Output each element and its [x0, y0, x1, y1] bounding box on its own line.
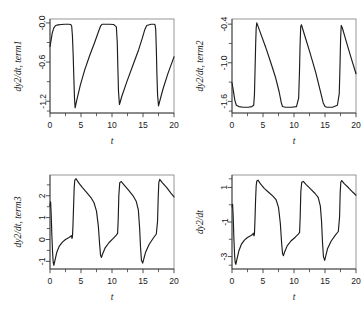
panel-total-y-ticklabel: 1	[220, 185, 230, 190]
panel-term3-plot: 05101520t-1012dy2/dt, term3	[0, 156, 182, 311]
panel-term2-y-ticklabel: -1.6	[220, 94, 230, 109]
panel-term1: 05101520t-0.0-0.6-1.2dy2/dt, term1	[0, 0, 182, 155]
panel-term3-y-ticklabel: 1	[38, 215, 48, 220]
panel-term1-series-term1	[50, 24, 174, 108]
panel-term2-x-axis-title: t	[293, 135, 296, 146]
panel-term3-plot-box	[50, 175, 174, 269]
panel-total-x-ticklabel: 15	[320, 276, 330, 286]
panel-total-y-axis-title: dy2/dt	[194, 210, 205, 234]
panel-term1-y-ticklabel: -1.2	[38, 94, 48, 109]
panel-term3-series-term3	[50, 179, 174, 266]
panel-term2-y-axis-title: dy2/dt, term2	[194, 40, 205, 91]
panel-term1-plot: 05101520t-0.0-0.6-1.2dy2/dt, term1	[0, 0, 182, 155]
panel-total-x-ticklabel: 0	[230, 276, 235, 286]
panel-term3: 05101520t-1012dy2/dt, term3	[0, 156, 182, 311]
panel-total-plot-box	[232, 175, 356, 269]
panel-term3-x-ticklabel: 15	[138, 276, 148, 286]
panel-term1-x-ticklabel: 20	[169, 120, 179, 130]
panel-term2-x-ticklabel: 10	[289, 120, 299, 130]
panel-term3-y-ticklabel: 2	[38, 193, 48, 198]
panel-term2-x-ticklabel: 15	[320, 120, 330, 130]
panel-term2-plot-box	[232, 19, 356, 113]
panel-term1-y-axis-title: dy2/dt, term1	[12, 40, 23, 91]
panel-total-x-axis-title: t	[293, 291, 296, 302]
panel-term2-x-ticklabel: 0	[230, 120, 235, 130]
panel-term3-x-axis-title: t	[111, 291, 114, 302]
figure-panel-grid: 05101520t-0.0-0.6-1.2dy2/dt, term1 05101…	[0, 0, 364, 311]
panel-term2-x-ticklabel: 5	[261, 120, 266, 130]
panel-term2-y-ticklabel: -0.4	[220, 17, 230, 32]
panel-total: 05101520t-3-11dy2/dt	[182, 156, 364, 311]
panel-term1-x-ticklabel: 5	[79, 120, 84, 130]
panel-term1-x-axis-title: t	[111, 135, 114, 146]
panel-term3-x-ticklabel: 20	[169, 276, 179, 286]
panel-term1-y-ticklabel: -0.6	[38, 54, 48, 69]
panel-total-y-ticklabel: -1	[220, 218, 230, 226]
panel-total-x-ticklabel: 20	[351, 276, 361, 286]
panel-total-plot: 05101520t-3-11dy2/dt	[182, 156, 364, 311]
panel-total-series-dy2-dt	[232, 180, 356, 264]
panel-term1-x-ticklabel: 10	[107, 120, 117, 130]
panel-term2-x-ticklabel: 20	[351, 120, 361, 130]
panel-term2-plot: 05101520t-0.4-1.0-1.6dy2/dt, term2	[182, 0, 364, 155]
panel-term3-y-ticklabel: -1	[38, 257, 48, 265]
panel-term3-x-ticklabel: 5	[79, 276, 84, 286]
panel-term2: 05101520t-0.4-1.0-1.6dy2/dt, term2	[182, 0, 364, 155]
panel-term1-x-ticklabel: 15	[138, 120, 148, 130]
panel-total-y-ticklabel: -3	[220, 253, 230, 261]
panel-term1-x-ticklabel: 0	[48, 120, 53, 130]
panel-term3-y-ticklabel: 0	[38, 237, 48, 242]
panel-term2-y-ticklabel: -1.0	[220, 55, 230, 70]
panel-total-x-ticklabel: 5	[261, 276, 266, 286]
panel-total-x-ticklabel: 10	[289, 276, 299, 286]
panel-term3-y-axis-title: dy2/dt, term3	[12, 196, 23, 247]
panel-term3-x-ticklabel: 10	[107, 276, 117, 286]
panel-term3-x-ticklabel: 0	[48, 276, 53, 286]
panel-term2-series-term2	[232, 23, 356, 107]
panel-term1-y-ticklabel: -0.0	[38, 15, 48, 30]
